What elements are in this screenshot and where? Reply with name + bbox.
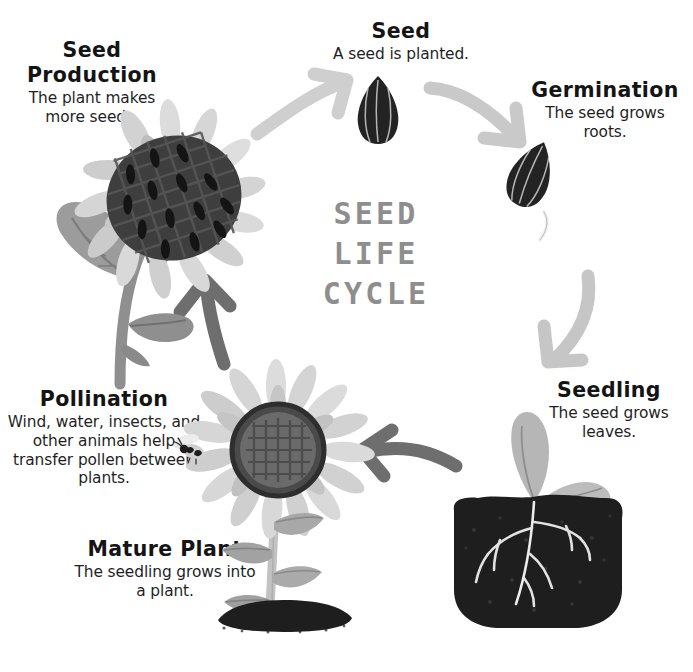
bee — [170, 430, 214, 470]
mature-plant-soil — [208, 594, 360, 634]
drooping-seed-head-plant — [28, 98, 260, 390]
sunflower-seed — [352, 72, 404, 148]
flower-center — [232, 404, 324, 496]
pollination-heading: Pollination — [5, 387, 203, 412]
page-title: SEED LIFE CYCLE — [296, 194, 456, 314]
soil-block — [454, 495, 623, 628]
label-seed: Seed A seed is planted. — [311, 19, 491, 64]
seed-life-cycle-diagram: SEED LIFE CYCLE Seed Production The plan… — [0, 0, 693, 672]
seedling-in-soil — [438, 382, 638, 640]
label-germination: Germination The seed grows roots. — [523, 78, 687, 142]
leaf-small-right — [128, 313, 194, 342]
seed-production-heading: Seed Production — [8, 38, 176, 88]
germinating-seed — [498, 136, 572, 246]
germination-heading: Germination — [523, 78, 687, 103]
seed-description: A seed is planted. — [311, 45, 491, 64]
arrow-germination-to-seedling — [530, 268, 616, 374]
arrow-production-to-seed — [252, 66, 360, 142]
seed-heading: Seed — [311, 19, 491, 44]
mature-sunflower — [182, 368, 372, 630]
cotyledon-left — [511, 412, 549, 502]
